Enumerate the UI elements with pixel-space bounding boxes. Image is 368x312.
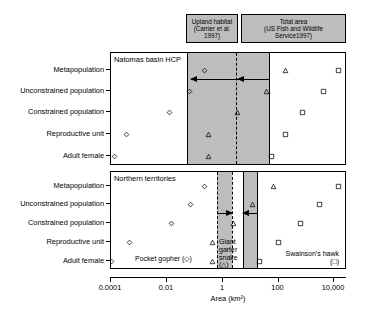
data-point-giant-garter-snake: [271, 184, 276, 189]
legend-swainsons-hawk: Swainson's hawk (□): [259, 250, 339, 266]
panel-title-northern: Northern territories: [114, 174, 176, 183]
data-point-swainsons-hawk: [283, 132, 288, 137]
legend-swainsons-hawk-symbol: (□): [330, 258, 339, 265]
data-point-giant-garter-snake: [210, 259, 215, 264]
header-upland-line2: (Carrier et al. 1997): [194, 25, 231, 39]
y-axis-label-metapopulation: Metapopulation: [53, 181, 104, 190]
x-axis-tick-label: 0.01: [159, 283, 173, 292]
upland-habitat-band-edge: [269, 53, 270, 164]
x-axis-tick: [222, 277, 223, 282]
panel-northern-territories: Northern territories Pocket gopher (◇) G…: [110, 171, 346, 269]
data-point-pocket-gopher: [110, 259, 114, 264]
total-area-arrow: [238, 79, 269, 80]
x-axis-tick: [166, 277, 167, 282]
data-point-giant-garter-snake: [250, 202, 255, 207]
figure-species-area-chart: Upland habitat (Carrier et al. 1997) Tot…: [0, 0, 368, 312]
data-point-swainsons-hawk: [336, 184, 341, 189]
data-point-pocket-gopher: [112, 154, 117, 159]
y-axis-label-adult-female: Adult female: [63, 256, 104, 265]
data-point-swainsons-hawk: [336, 68, 341, 73]
upland-habitat-band-divider: [236, 53, 237, 164]
data-point-giant-garter-snake: [283, 68, 288, 73]
data-point-pocket-gopher: [167, 110, 172, 115]
upland-habitat-band: [187, 53, 269, 164]
legend-giant-garter-snake: Giantgartersnake (△): [219, 238, 249, 269]
y-axis-label-unconstrained-population: Unconstrained population: [20, 86, 104, 95]
y-axis-label-reproductive-unit: Reproductive unit: [46, 237, 104, 246]
legend-swainsons-hawk-label: Swainson's hawk: [286, 250, 339, 257]
x-axis-tick: [333, 277, 334, 282]
legend-giant-garter-snake-label: Giantgartersnake (△): [219, 238, 238, 268]
y-axis-label-constrained-population: Constrained population: [28, 218, 104, 227]
data-point-swainsons-hawk: [269, 154, 274, 159]
upland-arrow: [191, 79, 238, 80]
data-point-giant-garter-snake: [235, 110, 240, 115]
x-axis-tick-label: 0.0001: [99, 283, 122, 292]
data-point-giant-garter-snake: [210, 240, 215, 245]
data-point-swainsons-hawk: [298, 221, 303, 226]
legend-pocket-gopher-symbol: (◇): [180, 255, 192, 262]
panel-natomas-basin-hcp: Natomas basin HCP: [110, 52, 346, 165]
data-point-swainsons-hawk: [300, 110, 305, 115]
legend-pocket-gopher: Pocket gopher (◇): [135, 255, 192, 263]
x-axis-line: [110, 277, 346, 278]
header-upland-habitat: Upland habitat (Carrier et al. 1997): [186, 14, 238, 43]
upland-habitat-band-edge: [217, 172, 218, 268]
data-point-giant-garter-snake: [206, 154, 211, 159]
total-area-arrow: [243, 213, 257, 214]
data-point-giant-garter-snake: [206, 132, 211, 137]
data-point-pocket-gopher: [169, 221, 174, 226]
data-point-swainsons-hawk: [276, 240, 281, 245]
data-point-pocket-gopher: [124, 132, 129, 137]
y-axis-label-metapopulation: Metapopulation: [53, 65, 104, 74]
data-point-pocket-gopher: [127, 240, 132, 245]
panel-title-natomas: Natomas basin HCP: [114, 55, 181, 64]
x-axis-title: Area (km²): [211, 294, 246, 303]
header-total-line2: (US Fish and Wildlife: [264, 25, 323, 32]
header-total-line1: Total area: [280, 18, 308, 25]
data-point-giant-garter-snake: [231, 221, 236, 226]
y-axis-label-adult-female: Adult female: [63, 151, 104, 160]
upland-habitat-band-edge: [187, 53, 188, 164]
header-total-area: Total area (US Fish and Wildlife Service…: [241, 14, 346, 43]
legend-pocket-gopher-label: Pocket gopher: [135, 255, 180, 262]
data-point-pocket-gopher: [202, 184, 207, 189]
y-axis-label-constrained-population: Constrained population: [28, 107, 104, 116]
header-total-line3: Service1997): [275, 32, 312, 39]
x-axis-tick: [110, 277, 111, 282]
header-upland-line1: Upland habitat: [192, 18, 233, 25]
x-axis-tick-label: 10,000: [322, 283, 345, 292]
data-point-pocket-gopher: [188, 202, 193, 207]
x-axis-tick-label: 1: [220, 283, 224, 292]
data-point-swainsons-hawk: [317, 202, 322, 207]
data-point-giant-garter-snake: [264, 89, 269, 94]
data-point-pocket-gopher: [187, 89, 192, 94]
x-axis-tick-label: 100: [271, 283, 283, 292]
data-point-swainsons-hawk: [321, 89, 326, 94]
y-axis-label-reproductive-unit: Reproductive unit: [46, 129, 104, 138]
y-axis-label-unconstrained-population: Unconstrained population: [20, 199, 104, 208]
total-area-band-edge: [257, 172, 258, 268]
data-point-pocket-gopher: [202, 68, 207, 73]
upland-arrow: [217, 213, 232, 214]
x-axis-tick: [278, 277, 279, 282]
